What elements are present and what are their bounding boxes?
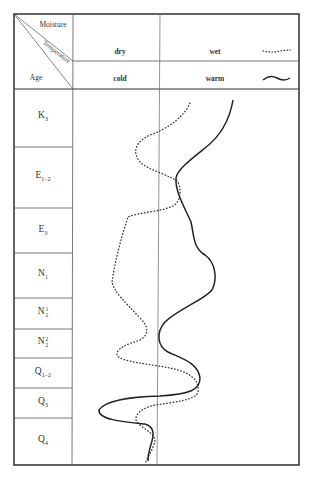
moisture-curve bbox=[112, 103, 198, 464]
age-label-e1-2: E1−2 bbox=[14, 170, 72, 182]
age-column-divider bbox=[72, 14, 73, 465]
corner-age-label: Age bbox=[26, 73, 46, 82]
age-label-q1-2: Q1−2 bbox=[14, 366, 72, 378]
age-label-q4: Q4 bbox=[14, 434, 72, 446]
moisture-dry-label: dry bbox=[100, 47, 140, 56]
age-label-n2-1: N12 bbox=[14, 306, 72, 318]
age-label-e3: E3 bbox=[14, 224, 72, 236]
age-label-n2-2: N22 bbox=[14, 336, 72, 348]
moisture-wet-label: wet bbox=[195, 47, 235, 56]
temperature-curve bbox=[99, 100, 233, 461]
center-divider bbox=[157, 14, 160, 465]
legend-dotted-icon bbox=[263, 50, 291, 52]
legend-solid-icon bbox=[263, 76, 290, 80]
age-label-q3: Q3 bbox=[14, 396, 72, 408]
age-label-k3: K3 bbox=[14, 110, 72, 122]
temperature-cold-label: cold bbox=[100, 74, 140, 83]
age-label-n1: N1 bbox=[14, 268, 72, 280]
temperature-warm-label: warm bbox=[195, 74, 235, 83]
corner-moisture-label: Moisture bbox=[36, 20, 70, 29]
